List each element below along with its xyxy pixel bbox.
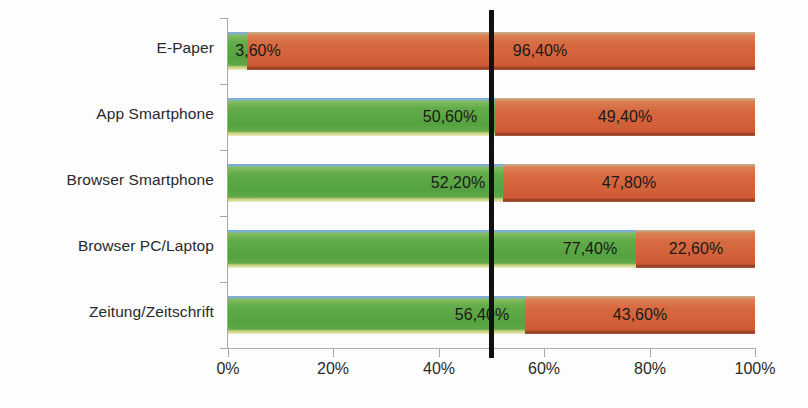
x-axis-label-100: 100% <box>715 360 795 378</box>
y-axis-tick <box>220 282 228 283</box>
y-axis-label-zeitung-zeitschrift: Zeitung/Zeitschrift <box>0 303 214 321</box>
x-axis-tick <box>439 349 440 357</box>
x-axis-label-40: 40% <box>399 360 479 378</box>
x-axis-label-20: 20% <box>293 360 373 378</box>
bar-segment-green <box>228 32 247 70</box>
stacked-bar-chart: E-Paper App Smartphone Browser Smartphon… <box>0 0 808 408</box>
bar-segment-red <box>247 32 755 70</box>
bar-segment-red <box>495 98 755 136</box>
y-axis-label-app-smartphone: App Smartphone <box>0 105 214 123</box>
x-axis-tick <box>228 349 229 357</box>
y-axis-label-e-paper: E-Paper <box>0 39 214 57</box>
y-axis-label-browser-smartphone: Browser Smartphone <box>0 171 214 189</box>
bar-segment-green <box>228 164 503 202</box>
y-axis-tick <box>220 150 228 151</box>
x-axis-label-0: 0% <box>188 360 268 378</box>
y-axis-tick <box>220 84 228 85</box>
bar-segment-green <box>228 230 636 268</box>
bar-segment-red <box>636 230 755 268</box>
x-axis-tick <box>650 349 651 357</box>
bar-segment-red <box>503 164 755 202</box>
fifty-percent-reference-line <box>489 10 494 358</box>
y-axis-tick <box>220 348 228 349</box>
x-axis-tick <box>755 349 756 357</box>
x-axis-tick <box>544 349 545 357</box>
x-axis-tick <box>333 349 334 357</box>
x-axis-label-80: 80% <box>610 360 690 378</box>
x-axis-label-60: 60% <box>504 360 584 378</box>
y-axis-tick <box>220 216 228 217</box>
y-axis-label-browser-pc-laptop: Browser PC/Laptop <box>0 237 214 255</box>
y-axis-tick <box>220 18 228 19</box>
bar-segment-green <box>228 98 495 136</box>
bar-segment-green <box>228 296 525 334</box>
bar-segment-red <box>525 296 755 334</box>
